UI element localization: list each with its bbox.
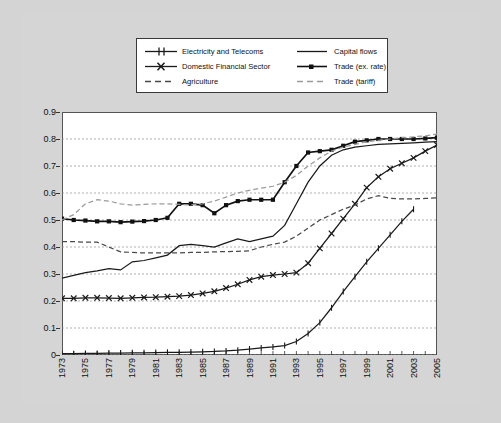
data-point-marker-square [142, 219, 146, 223]
data-point-marker-x [340, 216, 346, 222]
data-point-marker-x [411, 155, 417, 161]
x-tick-label: 1989 [245, 358, 255, 378]
y-tick-label: 0.5 [43, 215, 56, 225]
legend-grid: Electricity and Telecoms Capital flows [145, 44, 379, 89]
x-axis: 1973197519771979198119831985198719891991… [62, 358, 437, 408]
y-tick-mark [56, 112, 60, 113]
y-tick-label: 0.3 [43, 269, 56, 279]
data-point-marker-x [317, 246, 323, 252]
data-point-marker-square [259, 198, 263, 202]
data-point-marker-square [294, 164, 298, 168]
legend-label: Trade (tariff) [334, 78, 375, 86]
y-tick-label: 0.6 [43, 188, 56, 198]
data-point-marker-x [376, 174, 382, 180]
data-point-marker-square [271, 198, 275, 202]
y-tick-mark [56, 247, 60, 248]
x-tick-label: 1995 [315, 358, 325, 378]
x-tick-label: 1983 [174, 358, 184, 378]
plot-area [62, 112, 437, 355]
data-point-marker-square [72, 218, 76, 222]
y-tick-mark [56, 301, 60, 302]
legend-item-trade-tariff: Trade (tariff) [297, 76, 397, 87]
data-point-marker-x [422, 148, 428, 154]
legend-item-capital-flows: Capital flows [297, 46, 397, 57]
legend-swatch-line-plus-marker-icon [145, 46, 177, 57]
series-line-capital-flows [62, 142, 437, 278]
data-point-marker-square [154, 218, 158, 222]
y-tick-mark [56, 328, 60, 329]
chart-lines [62, 112, 437, 355]
y-tick-mark [56, 220, 60, 221]
legend-item-domestic-financial-sector: Domestic Financial Sector [145, 61, 297, 72]
series-line-electricity-and-telecoms [62, 209, 414, 353]
y-tick-mark [56, 355, 60, 356]
legend-label: Agriculture [182, 78, 218, 86]
legend-swatch-dark-dashed-line-icon [145, 76, 177, 87]
x-tick-label: 1987 [221, 358, 231, 378]
y-tick-mark [56, 166, 60, 167]
x-tick-label: 2001 [385, 358, 395, 378]
x-tick-label: 1975 [80, 358, 90, 378]
legend-label: Electricity and Telecoms [182, 48, 263, 56]
data-point-marker-square [435, 136, 437, 140]
data-point-marker-x [434, 142, 437, 148]
x-tick-label: 1981 [151, 358, 161, 378]
data-point-marker-x [305, 260, 311, 266]
chart-figure: Electricity and Telecoms Capital flows [0, 0, 501, 423]
chart-legend: Electricity and Telecoms Capital flows [136, 38, 388, 93]
legend-item-agriculture: Agriculture [145, 76, 297, 87]
data-point-marker-x [329, 231, 335, 237]
legend-swatch-solid-line-icon [297, 46, 329, 57]
figure-caption [2, 416, 242, 423]
y-tick-label: 0.1 [43, 323, 56, 333]
legend-swatch-grey-dashed-line-icon [297, 76, 329, 87]
x-tick-label: 1993 [291, 358, 301, 378]
data-point-marker-x [387, 166, 393, 172]
x-tick-label: 1991 [268, 358, 278, 378]
legend-item-trade-ex-rate: Trade (ex. rate) [297, 61, 397, 72]
data-point-marker-square [247, 198, 251, 202]
series-line-agriculture [62, 196, 437, 253]
x-tick-label: 2003 [409, 358, 419, 378]
data-point-marker-x [364, 185, 370, 191]
y-axis: 00.10.20.30.40.50.60.70.80.9 [0, 112, 56, 355]
x-tick-label: 1977 [104, 358, 114, 378]
x-tick-label: 1985 [198, 358, 208, 378]
y-tick-label: 0.7 [43, 161, 56, 171]
y-tick-label: 0.9 [43, 107, 56, 117]
y-tick-mark [56, 274, 60, 275]
data-point-marker-square [118, 220, 122, 224]
legend-item-electricity-and-telecoms: Electricity and Telecoms [145, 46, 297, 57]
data-point-marker-square [165, 216, 169, 220]
x-tick-label: 1999 [362, 358, 372, 378]
y-tick-label: 0.4 [43, 242, 56, 252]
y-tick-label: 0.8 [43, 134, 56, 144]
legend-swatch-square-marker-icon [297, 61, 329, 72]
data-point-marker-x [399, 161, 405, 167]
data-point-marker-square [107, 219, 111, 223]
data-point-marker-square [83, 218, 87, 222]
data-point-marker-square [306, 150, 310, 154]
x-tick-label: 1973 [57, 358, 67, 378]
data-point-marker-square [318, 149, 322, 153]
y-tick-mark [56, 193, 60, 194]
data-point-marker-square [95, 219, 99, 223]
data-point-marker-square [353, 140, 357, 144]
series-line-trade-tariff [62, 134, 437, 220]
x-tick-label: 1979 [127, 358, 137, 378]
legend-swatch-x-marker-icon [145, 61, 177, 72]
y-tick-mark [56, 139, 60, 140]
data-point-marker-square [423, 136, 427, 140]
legend-label: Capital flows [334, 48, 377, 56]
legend-label: Domestic Financial Sector [182, 63, 270, 71]
data-point-marker-square [130, 220, 134, 224]
data-point-marker-square [236, 199, 240, 203]
x-tick-label: 2005 [432, 358, 442, 378]
y-tick-label: 0.2 [43, 296, 56, 306]
x-tick-label: 1997 [338, 358, 348, 378]
data-point-marker-square [212, 211, 216, 215]
legend-label: Trade (ex. rate) [334, 63, 386, 71]
data-point-marker-square [224, 203, 228, 207]
